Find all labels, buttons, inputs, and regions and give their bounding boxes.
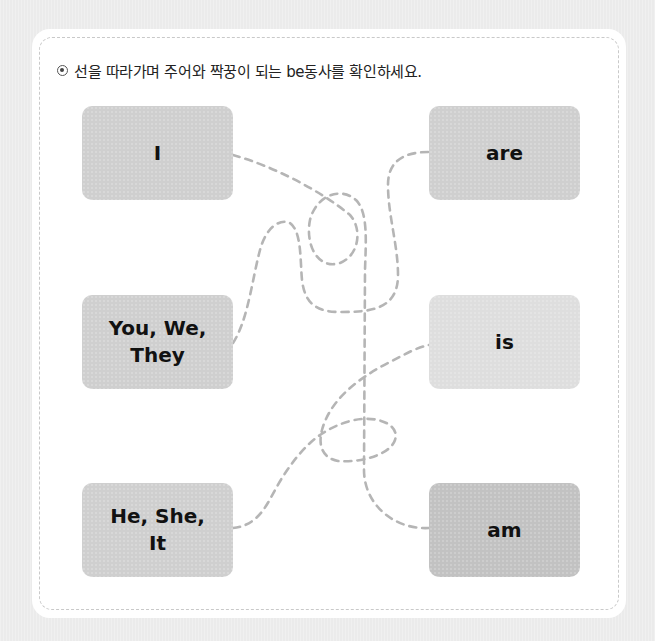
- subject-label: I: [154, 140, 161, 167]
- subject-label: You, We, They: [109, 315, 207, 369]
- subject-box-you-we-they[interactable]: You, We, They: [82, 295, 233, 389]
- verb-box-is[interactable]: is: [429, 295, 580, 389]
- verb-box-am[interactable]: am: [429, 483, 580, 577]
- subject-label: He, She, It: [110, 503, 205, 557]
- subject-box-i[interactable]: I: [82, 106, 233, 200]
- verb-box-are[interactable]: are: [429, 106, 580, 200]
- verb-label: is: [495, 329, 514, 356]
- subject-box-he-she-it[interactable]: He, She, It: [82, 483, 233, 577]
- verb-label: am: [487, 517, 521, 544]
- verb-label: are: [486, 140, 523, 167]
- line-i-to-am[interactable]: [233, 155, 429, 528]
- line-you-to-are[interactable]: [233, 152, 429, 343]
- line-he-to-is[interactable]: [233, 345, 429, 528]
